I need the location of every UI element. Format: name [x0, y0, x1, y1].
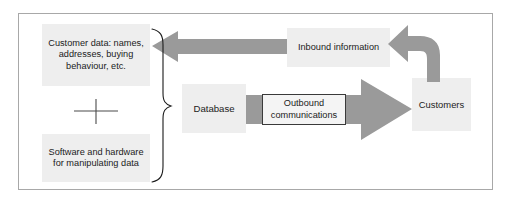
plus-sign: [74, 99, 118, 124]
label-outbound-communications: Outbound communications: [262, 94, 346, 125]
label-outbound-communications-text: Outbound communications: [263, 98, 345, 120]
mark-layer: [0, 0, 513, 210]
grouping-brace: [152, 29, 171, 182]
diagram-canvas: Customer data: names, addresses, buying …: [0, 0, 513, 210]
